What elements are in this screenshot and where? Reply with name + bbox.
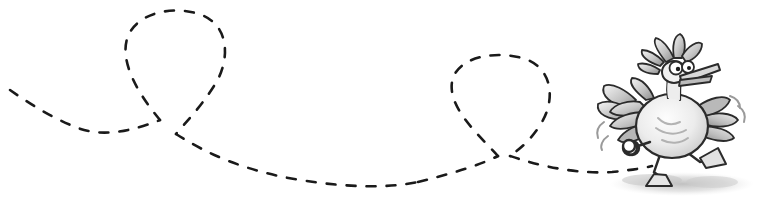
- wind-up-key-ring-upper: [623, 140, 635, 152]
- pupil-left: [676, 67, 680, 71]
- illustration-scene: [0, 0, 774, 224]
- body: [636, 94, 708, 158]
- eye-left: [670, 62, 683, 75]
- ground-shadow-patch-right: [686, 176, 738, 188]
- pupil-right: [687, 66, 691, 70]
- illustration-canvas: Cartoon wind-up bird with dashed looping…: [0, 0, 774, 224]
